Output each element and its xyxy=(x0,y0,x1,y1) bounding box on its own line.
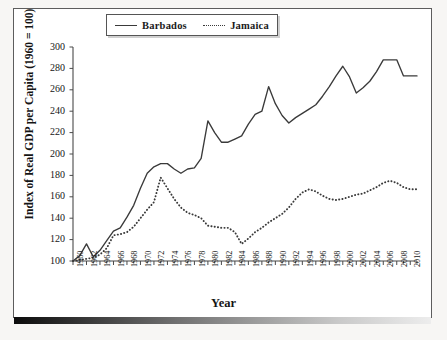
x-tick-label: 1996 xyxy=(319,251,328,267)
x-axis-title: Year xyxy=(0,296,447,311)
figure-page: Barbados Jamaica Index of Real GDP per C… xyxy=(0,0,447,340)
x-tick-label: 1960 xyxy=(76,251,85,267)
scan-gradient-bar xyxy=(14,317,431,324)
x-tick-label: 1986 xyxy=(252,251,261,267)
x-tick-label: 1988 xyxy=(265,251,274,267)
x-tick-label: 1970 xyxy=(144,251,153,267)
x-tick-label: 1992 xyxy=(292,251,301,267)
x-tick-label: 2004 xyxy=(373,251,382,267)
x-tick-label: 1984 xyxy=(238,251,247,267)
y-tick-label: 100 xyxy=(39,255,65,266)
y-tick-label: 120 xyxy=(39,233,65,244)
chart-canvas xyxy=(0,0,447,340)
x-tick-label: 1964 xyxy=(103,251,112,267)
x-tick-label: 1968 xyxy=(130,251,139,267)
y-tick-label: 240 xyxy=(39,105,65,116)
y-tick-label: 180 xyxy=(39,169,65,180)
x-tick-label: 2002 xyxy=(359,251,368,267)
series-line-jamaica xyxy=(73,178,417,261)
y-axis-title: Index of Real GDP per Capita (1960 = 100… xyxy=(23,6,35,222)
x-tick-label: 1994 xyxy=(306,251,315,267)
x-tick-label: 1990 xyxy=(279,251,288,267)
x-tick-label: 1982 xyxy=(225,251,234,267)
x-tick-label: 2010 xyxy=(413,251,422,267)
x-tick-label: 2008 xyxy=(400,251,409,267)
y-tick-label: 260 xyxy=(39,83,65,94)
axis-lines xyxy=(73,47,417,261)
x-tick-label: 1980 xyxy=(211,251,220,267)
x-tick-label: 1966 xyxy=(117,251,126,267)
plot-area xyxy=(0,0,447,340)
y-tick-label: 300 xyxy=(39,41,65,52)
y-tick-label: 160 xyxy=(39,190,65,201)
y-tick-label: 280 xyxy=(39,62,65,73)
x-tick-label: 1962 xyxy=(90,251,99,267)
x-tick-label: 2006 xyxy=(386,251,395,267)
y-tick-label: 220 xyxy=(39,126,65,137)
x-tick-label: 1978 xyxy=(198,251,207,267)
x-tick-label: 1976 xyxy=(184,251,193,267)
x-tick-label: 2000 xyxy=(346,251,355,267)
x-tick-label: 1998 xyxy=(333,251,342,267)
y-tick-label: 140 xyxy=(39,212,65,223)
x-tick-label: 1972 xyxy=(157,251,166,267)
x-tick-label: 1974 xyxy=(171,251,180,267)
y-tick-label: 200 xyxy=(39,148,65,159)
series-line-barbados xyxy=(73,60,417,261)
